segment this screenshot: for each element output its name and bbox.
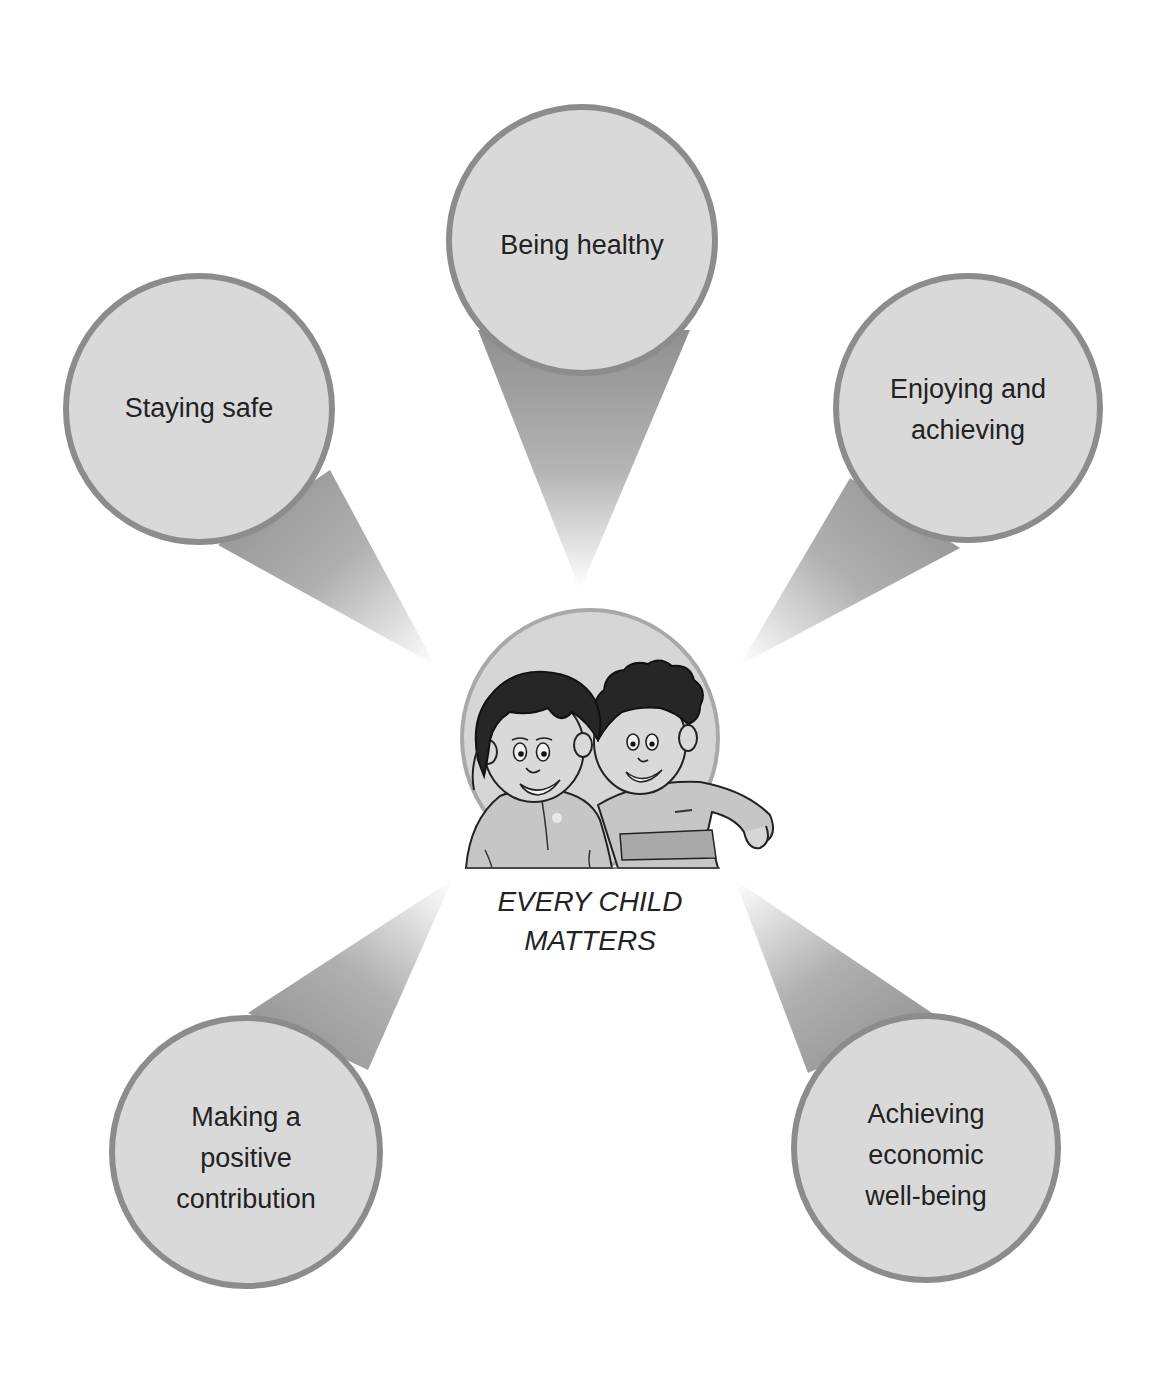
label-making-a-positive-contribution: Making a positive contribution: [116, 1088, 376, 1228]
label-being-healthy: Being healthy: [452, 185, 712, 305]
label-enjoying-and-achieving: Enjoying and achieving: [838, 350, 1098, 470]
two-children-illustration: [462, 610, 773, 868]
center-title: EVERY CHILD MATTERS: [440, 882, 740, 960]
label-achieving-economic-well-being: Achieving economic well-being: [796, 1085, 1056, 1225]
label-staying-safe: Staying safe: [69, 348, 329, 468]
